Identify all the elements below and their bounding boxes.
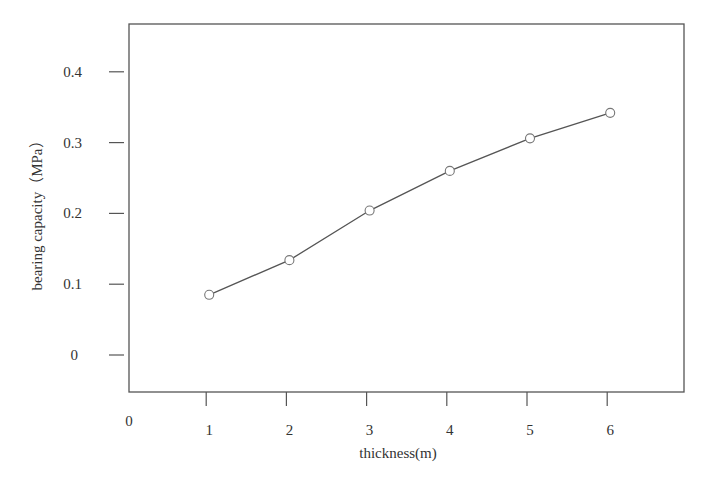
x-tick-label: 5 xyxy=(526,422,534,438)
data-point-marker xyxy=(526,134,535,143)
y-tick-label: 0.2 xyxy=(63,205,82,221)
y-tick-label: 0.3 xyxy=(63,135,82,151)
y-axis-ticks: 00.10.20.30.4 xyxy=(63,64,124,363)
x-axis-label: thickness(m) xyxy=(359,445,436,462)
data-point-marker xyxy=(205,290,214,299)
y-tick-label: 0 xyxy=(71,347,79,363)
data-point-marker xyxy=(445,166,454,175)
x-tick-label: 4 xyxy=(446,422,454,438)
data-point-marker xyxy=(606,108,615,117)
x-tick-label: 6 xyxy=(606,422,614,438)
x-tick-label: 2 xyxy=(286,422,294,438)
plot-frame xyxy=(129,24,684,392)
data-point-marker xyxy=(365,206,374,215)
x-axis-ticks: 0123456 xyxy=(125,392,614,438)
data-series xyxy=(205,108,615,299)
line-chart: 00.10.20.30.4 0123456 thickness(m) beari… xyxy=(0,0,716,485)
x-tick-label: 0 xyxy=(125,413,133,429)
y-tick-label: 0.1 xyxy=(63,276,82,292)
y-axis-label: bearing capacity（MPa） xyxy=(29,133,45,290)
series-line xyxy=(209,113,610,295)
y-tick-label: 0.4 xyxy=(63,64,82,80)
x-tick-label: 1 xyxy=(205,422,213,438)
x-tick-label: 3 xyxy=(366,422,374,438)
data-point-marker xyxy=(285,256,294,265)
